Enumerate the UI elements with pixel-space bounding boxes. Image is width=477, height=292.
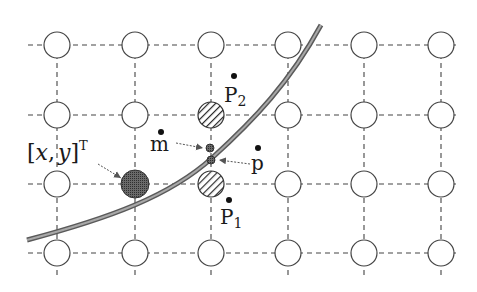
grid-node bbox=[428, 240, 454, 266]
curve-outer bbox=[27, 25, 321, 240]
grid-node bbox=[351, 102, 377, 128]
xy-bracket-close: ] bbox=[70, 140, 79, 165]
grid-nodes bbox=[44, 32, 454, 266]
p2-label: P2 bbox=[224, 83, 246, 109]
grid-node bbox=[44, 171, 70, 197]
grid-node bbox=[122, 32, 148, 58]
xy-label: [x,y]T bbox=[27, 138, 88, 165]
grid-node bbox=[351, 171, 377, 197]
curve-inner bbox=[27, 25, 321, 240]
grid-node bbox=[198, 32, 224, 58]
xy-superscript: T bbox=[79, 138, 88, 153]
diagram-canvas: m p P2 P1 [x,y]T bbox=[0, 0, 477, 292]
xy-x: x bbox=[36, 140, 49, 165]
xy-bracket-open: [ bbox=[27, 140, 36, 165]
grid-node bbox=[122, 240, 148, 266]
grid-node bbox=[44, 102, 70, 128]
grid-node bbox=[351, 240, 377, 266]
p2-label-sub: 2 bbox=[237, 93, 246, 109]
xy-y: y bbox=[57, 140, 71, 165]
grid-diagram: m p P2 P1 [x,y]T bbox=[0, 0, 477, 292]
p-label: p bbox=[251, 151, 264, 175]
grid-node bbox=[44, 32, 70, 58]
grid-node bbox=[275, 32, 301, 58]
xy-filled-node bbox=[121, 170, 149, 198]
p1-label-dot bbox=[226, 197, 232, 203]
grid-node bbox=[275, 240, 301, 266]
grid-node bbox=[44, 240, 70, 266]
p2-hatched-node bbox=[198, 102, 224, 128]
m-point bbox=[206, 144, 214, 152]
xy-comma: , bbox=[48, 140, 55, 165]
m-label: m bbox=[150, 132, 169, 156]
grid-node bbox=[428, 102, 454, 128]
p2-label-dot bbox=[231, 73, 237, 79]
p-tilde-point bbox=[207, 156, 215, 164]
p-arrow bbox=[219, 160, 250, 164]
grid-node bbox=[428, 32, 454, 58]
grid-node bbox=[351, 32, 377, 58]
grid-node bbox=[275, 171, 301, 197]
grid-node bbox=[198, 240, 224, 266]
p2-label-base: P bbox=[224, 83, 237, 107]
grid-node bbox=[428, 171, 454, 197]
m-arrow bbox=[176, 143, 203, 148]
xy-arrow bbox=[98, 164, 121, 178]
grid-vertical-lines bbox=[57, 45, 441, 275]
p1-label-sub: 1 bbox=[233, 215, 242, 231]
p1-hatched-node bbox=[198, 171, 224, 197]
grid-node bbox=[275, 102, 301, 128]
p1-label: P1 bbox=[220, 205, 242, 231]
grid-node bbox=[122, 102, 148, 128]
p1-label-base: P bbox=[220, 205, 233, 229]
